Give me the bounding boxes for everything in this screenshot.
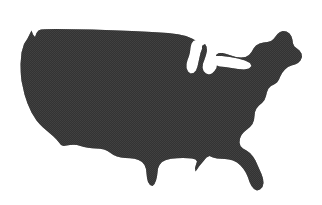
us-map-silhouette [0,0,322,205]
halftone-texture [0,0,322,205]
us-map-figure: Contiguous United States [0,0,322,205]
